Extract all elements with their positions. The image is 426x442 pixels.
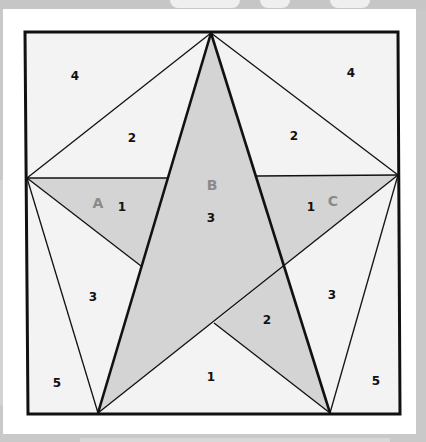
label-piece-b: B <box>207 177 218 193</box>
number-top-right-corner: 4 <box>347 66 355 80</box>
number-bottom-left-corner: 5 <box>53 376 61 390</box>
number-piece-a: 1 <box>118 200 126 214</box>
number-lower-right-point: 2 <box>263 313 271 327</box>
number-top-right-triangle: 2 <box>290 129 298 143</box>
number-top-left-triangle: 2 <box>128 131 136 145</box>
number-piece-b: 3 <box>207 211 215 225</box>
number-bottom-center-triangle: 1 <box>207 370 215 384</box>
number-right-side-triangle: 3 <box>328 288 336 302</box>
label-piece-c: C <box>328 193 338 209</box>
star-block-diagram: A B C 1 3 1 4 4 2 2 3 3 5 5 1 2 <box>0 0 426 442</box>
number-bottom-right-corner: 5 <box>372 374 380 388</box>
number-left-side-triangle: 3 <box>89 290 97 304</box>
number-top-left-corner: 4 <box>71 69 79 83</box>
number-piece-c: 1 <box>307 200 315 214</box>
label-piece-a: A <box>93 195 104 211</box>
